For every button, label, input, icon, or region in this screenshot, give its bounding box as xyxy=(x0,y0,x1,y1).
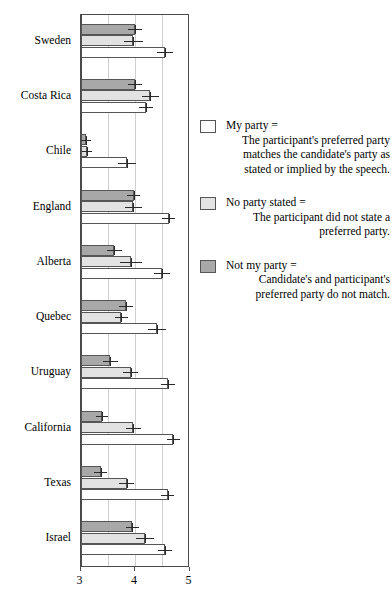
x-tick xyxy=(134,567,135,571)
bar xyxy=(81,47,165,58)
error-bar-cap xyxy=(168,380,169,389)
error-bar-cap xyxy=(121,313,122,322)
category-label: Israel xyxy=(45,531,71,543)
category-label: Uruguay xyxy=(31,365,71,377)
bar xyxy=(81,79,136,90)
x-tick-label: 3 xyxy=(77,573,83,588)
bar xyxy=(81,378,168,389)
legend-title: Not my party = xyxy=(226,258,390,273)
bar xyxy=(81,90,151,101)
legend-text: Not my party =Candidate's and participan… xyxy=(226,258,390,302)
legend-swatch xyxy=(200,260,216,273)
gridline xyxy=(162,15,163,566)
error-bar-cap xyxy=(150,92,151,101)
bar xyxy=(81,521,133,532)
category-label: Chile xyxy=(46,144,71,156)
error-bar-cap xyxy=(135,25,136,34)
x-axis: 345 xyxy=(0,567,392,597)
bar xyxy=(81,489,168,500)
chart-legend: My party =The participant's preferred pa… xyxy=(200,118,390,320)
legend-entry: No party stated =The participant did not… xyxy=(200,195,390,239)
category-label: Alberta xyxy=(37,255,71,267)
bar xyxy=(81,268,163,279)
legend-description: The participant did not state a preferre… xyxy=(226,210,390,239)
category-label: California xyxy=(24,421,71,433)
error-bar-cap xyxy=(169,214,170,223)
bar xyxy=(81,434,174,445)
legend-description: The participant's preferred party matche… xyxy=(226,133,390,177)
chart-figure: SwedenCosta RicaChileEnglandAlbertaQuebe… xyxy=(0,0,392,613)
error-bar-cap xyxy=(131,258,132,267)
error-bar-cap xyxy=(173,435,174,444)
bar xyxy=(81,323,157,334)
bar xyxy=(81,24,136,35)
error-bar-cap xyxy=(132,523,133,532)
bar xyxy=(81,544,165,555)
error-bar-cap xyxy=(114,246,115,255)
error-bar-cap xyxy=(127,159,128,168)
error-bar-cap xyxy=(86,136,87,145)
legend-swatch xyxy=(200,120,216,133)
y-axis-category-labels: SwedenCosta RicaChileEnglandAlbertaQuebe… xyxy=(0,0,75,613)
legend-text: My party =The participant's preferred pa… xyxy=(226,118,390,176)
x-tick xyxy=(189,567,190,571)
legend-swatch xyxy=(200,197,216,210)
error-bar-cap xyxy=(133,424,134,433)
error-bar-cap xyxy=(127,479,128,488)
error-bar-cap xyxy=(134,191,135,200)
plot-area xyxy=(80,14,189,567)
error-bar-cap xyxy=(157,325,158,334)
category-label: Quebec xyxy=(36,310,71,322)
legend-text: No party stated =The participant did not… xyxy=(226,195,390,239)
error-bar-cap xyxy=(87,147,88,156)
legend-entry: Not my party =Candidate's and participan… xyxy=(200,258,390,302)
error-bar-cap xyxy=(126,302,127,311)
legend-title: No party stated = xyxy=(226,195,390,210)
category-label: Sweden xyxy=(35,34,71,46)
category-label: Texas xyxy=(44,476,71,488)
error-bar-cap xyxy=(146,103,147,112)
x-tick-label: 4 xyxy=(131,573,137,588)
error-bar-cap xyxy=(133,37,134,46)
x-tick xyxy=(80,567,81,571)
error-bar-cap xyxy=(162,269,163,278)
legend-description: Candidate's and participant's preferred … xyxy=(226,272,390,301)
error-bar-cap xyxy=(168,491,169,500)
error-bar-cap xyxy=(135,80,136,89)
bar xyxy=(81,213,169,224)
error-bar-cap xyxy=(145,534,146,543)
category-label: Costa Rica xyxy=(21,89,71,101)
error-bar-cap xyxy=(165,48,166,57)
error-bar-cap xyxy=(133,203,134,212)
error-bar-cap xyxy=(101,468,102,477)
legend-title: My party = xyxy=(226,118,390,133)
legend-entry: My party =The participant's preferred pa… xyxy=(200,118,390,176)
x-tick-label: 5 xyxy=(186,573,192,588)
bar xyxy=(81,102,146,113)
error-bar-cap xyxy=(110,357,111,366)
category-label: England xyxy=(33,200,71,212)
error-bar-cap xyxy=(102,412,103,421)
error-bar-cap xyxy=(131,368,132,377)
error-bar-cap xyxy=(165,546,166,555)
bar xyxy=(81,190,134,201)
